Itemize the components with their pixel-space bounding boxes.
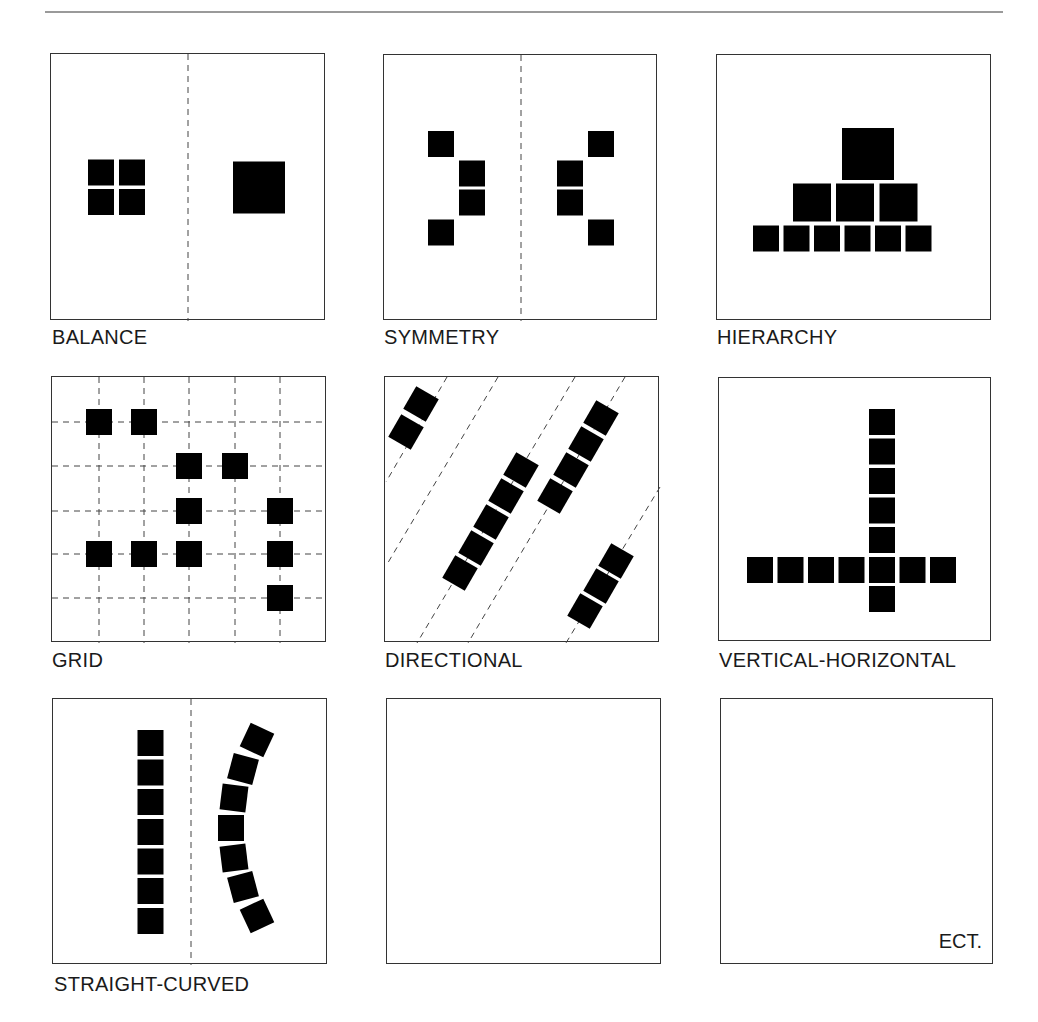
square-shape	[86, 409, 112, 435]
square-shape	[88, 160, 114, 186]
square-shape	[267, 541, 293, 567]
panel-symmetry	[383, 54, 657, 320]
square-shape	[403, 386, 439, 422]
square-shape	[588, 220, 614, 246]
panel-directional	[384, 376, 659, 642]
square-shape	[220, 844, 249, 873]
square-shape	[537, 478, 573, 514]
square-shape	[557, 190, 583, 216]
square-shape	[588, 131, 614, 157]
square-shape	[227, 871, 259, 903]
panel-label-vertical-horizontal: VERTICAL-HORIZONTAL	[719, 650, 956, 670]
diagram-page: BALANCESYMMETRYHIERARCHYGRIDDIRECTIONALV…	[0, 0, 1038, 1022]
square-shape	[808, 557, 834, 583]
square-shape	[138, 819, 164, 845]
panel-figure	[385, 377, 660, 643]
panel-label-balance: BALANCE	[52, 327, 147, 347]
panel-straight-curved	[52, 698, 327, 964]
square-shape	[240, 899, 275, 934]
square-shape	[459, 190, 485, 216]
square-shape	[138, 730, 164, 756]
panel-label-straight-curved: STRAIGHT-CURVED	[54, 974, 249, 994]
square-shape	[138, 849, 164, 875]
panel-figure	[717, 55, 992, 321]
square-shape	[869, 468, 895, 494]
square-shape	[473, 504, 509, 540]
square-shape	[488, 478, 524, 514]
square-shape	[138, 908, 164, 934]
square-shape	[553, 452, 589, 488]
square-shape	[793, 184, 831, 222]
square-shape	[557, 161, 583, 187]
square-shape	[218, 815, 244, 841]
square-shape	[503, 452, 539, 488]
square-shape	[906, 226, 932, 252]
panel-figure	[387, 699, 662, 965]
square-shape	[583, 400, 619, 436]
square-shape	[880, 184, 918, 222]
square-shape	[138, 760, 164, 786]
square-shape	[930, 557, 956, 583]
panel-label-grid: GRID	[52, 650, 103, 670]
square-shape	[86, 541, 112, 567]
panel-label-directional: DIRECTIONAL	[385, 650, 523, 670]
square-shape	[428, 131, 454, 157]
square-shape	[869, 409, 895, 435]
square-shape	[138, 789, 164, 815]
square-shape	[814, 226, 840, 252]
square-shape	[900, 557, 926, 583]
square-shape	[267, 498, 293, 524]
panel-figure	[384, 55, 658, 321]
square-shape	[784, 226, 810, 252]
square-shape	[839, 557, 865, 583]
square-shape	[869, 586, 895, 612]
panel-inner-label: ECT.	[939, 931, 982, 951]
square-shape	[176, 541, 202, 567]
square-shape	[875, 226, 901, 252]
header-rule	[45, 11, 1003, 13]
square-shape	[869, 527, 895, 553]
square-shape	[176, 498, 202, 524]
square-shape	[388, 414, 424, 450]
square-shape	[176, 453, 202, 479]
panel-label-symmetry: SYMMETRY	[384, 327, 499, 347]
panel-figure	[53, 699, 328, 965]
panel-hierarchy	[716, 54, 991, 320]
square-shape	[747, 557, 773, 583]
square-shape	[222, 453, 248, 479]
square-shape	[131, 541, 157, 567]
panel-figure	[719, 378, 992, 642]
panel-balance	[50, 53, 325, 320]
square-shape	[869, 498, 895, 524]
square-shape	[220, 784, 249, 813]
square-shape	[845, 226, 871, 252]
square-shape	[131, 409, 157, 435]
square-shape	[459, 161, 485, 187]
panel-figure	[52, 377, 327, 643]
panel-etc: ECT.	[720, 698, 993, 964]
panel-grid	[51, 376, 326, 642]
square-shape	[568, 426, 604, 462]
square-shape	[842, 128, 894, 180]
square-shape	[836, 184, 874, 222]
square-shape	[428, 220, 454, 246]
square-shape	[869, 557, 895, 583]
panel-label-hierarchy: HIERARCHY	[717, 327, 838, 347]
square-shape	[227, 753, 259, 785]
square-shape	[267, 585, 293, 611]
square-shape	[778, 557, 804, 583]
square-shape	[233, 162, 285, 214]
square-shape	[88, 189, 114, 215]
square-shape	[753, 226, 779, 252]
square-shape	[869, 439, 895, 465]
square-shape	[119, 189, 145, 215]
panel-figure	[721, 699, 994, 965]
square-shape	[119, 160, 145, 186]
panel-figure	[51, 54, 326, 321]
square-shape	[138, 878, 164, 904]
panel-vertical-horizontal	[718, 377, 991, 641]
square-shape	[240, 723, 275, 758]
panel-empty	[386, 698, 661, 964]
